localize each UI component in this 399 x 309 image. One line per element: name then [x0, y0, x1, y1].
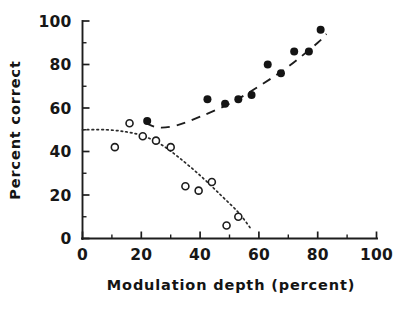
data-point-open: [111, 144, 118, 151]
data-points-filled-circles: [143, 26, 324, 125]
plot-axes: [82, 21, 377, 239]
y-tick-label: 80: [50, 56, 72, 74]
data-point-filled: [290, 47, 298, 55]
data-point-filled: [305, 47, 313, 55]
data-point-filled: [317, 26, 325, 34]
data-point-filled: [234, 95, 242, 103]
data-point-filled: [203, 95, 211, 103]
data-point-open: [235, 213, 242, 220]
y-axis-tick-labels: 020406080100: [39, 13, 72, 249]
y-tick-label: 0: [61, 230, 72, 248]
y-axis-title: Percent correct: [7, 60, 23, 199]
fit-curve-filled-circles: [146, 34, 327, 128]
y-tick-label: 20: [50, 187, 72, 205]
x-axis-title: Modulation depth (percent): [107, 277, 355, 293]
data-point-open: [208, 178, 215, 185]
y-tick-label: 40: [50, 143, 72, 161]
data-point-open: [182, 183, 189, 190]
data-point-open: [153, 137, 160, 144]
y-tick-label: 60: [50, 100, 72, 118]
x-tick-label: 40: [189, 246, 211, 264]
data-point-filled: [248, 91, 256, 99]
data-point-open: [126, 120, 133, 127]
x-tick-label: 60: [248, 246, 270, 264]
figure-container: 020406080100 020406080100 Modulation dep…: [0, 0, 399, 309]
x-tick-label: 20: [130, 246, 152, 264]
data-point-open: [195, 187, 202, 194]
data-point-filled: [264, 61, 272, 69]
x-axis-ticks: [83, 232, 377, 239]
scatter-plot: 020406080100 020406080100 Modulation dep…: [0, 0, 399, 309]
x-axis-tick-labels: 020406080100: [77, 246, 393, 264]
x-tick-label: 100: [360, 246, 393, 264]
data-point-open: [139, 133, 146, 140]
data-point-filled: [277, 69, 285, 77]
x-tick-label: 0: [77, 246, 88, 264]
x-tick-label: 80: [307, 246, 329, 264]
data-point-filled: [143, 117, 151, 125]
y-tick-label: 100: [39, 13, 72, 31]
data-points-open-circles: [111, 120, 241, 229]
data-point-open: [223, 222, 230, 229]
data-point-filled: [221, 100, 229, 108]
fit-curve-open-circles: [83, 130, 251, 228]
data-point-open: [167, 144, 174, 151]
